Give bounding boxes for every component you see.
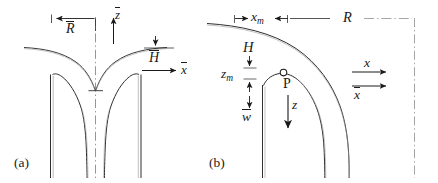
panel-b-label-point-p: P — [283, 77, 291, 91]
panel-b-label-w: w — [242, 110, 251, 124]
panel-b-label-axis-x-bottom: x — [354, 88, 360, 102]
panel-b-label-radius: R — [343, 10, 352, 25]
panel-a-label-axis-z: z — [115, 8, 120, 21]
panel-a-label-radius: R — [66, 22, 75, 36]
panel-b-label-zm: zm — [221, 67, 233, 83]
panel-b-inner-curve — [264, 69, 326, 178]
figure-container: R z H x (a) xm R H zm w P z x x (b) — [0, 0, 438, 183]
panel-b-label-xm: xm — [251, 10, 264, 26]
panel-b-outer-curve — [207, 24, 349, 179]
panel-a-tag: (a) — [14, 155, 29, 171]
panel-a-dimension-height — [144, 36, 174, 48]
panel-a-label-height: H — [149, 51, 159, 65]
panel-b-dimension-zm — [244, 56, 257, 108]
panel-b-label-axis-x-top: x — [364, 56, 370, 70]
panel-b-label-axis-z: z — [292, 98, 297, 112]
panel-b-tag: (b) — [209, 155, 225, 171]
panel-b-label-height: H — [243, 40, 253, 55]
point-p-marker — [280, 69, 287, 76]
panel-b-left-wall — [263, 85, 266, 178]
panel-a-label-axis-x: x — [181, 63, 187, 76]
